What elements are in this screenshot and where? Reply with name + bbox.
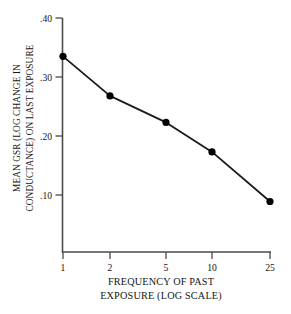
x-axis-ticks bbox=[63, 252, 270, 259]
x-tick-label-5: 5 bbox=[164, 262, 169, 273]
data-series-line bbox=[63, 56, 270, 201]
chart-plot-area: .40 .30 .20 .10 1 2 5 10 25 bbox=[0, 0, 291, 314]
x-axis-title: FREQUENCY OF PAST EXPOSURE (LOG SCALE) bbox=[46, 275, 276, 302]
figure-container: MEAN GSR (LOG CHANGE IN CONDUCTANCE) ON … bbox=[0, 0, 291, 314]
y-tick-label-20: .20 bbox=[40, 131, 52, 142]
x-tick-label-2: 2 bbox=[108, 262, 113, 273]
y-tick-label-30: .30 bbox=[40, 72, 52, 83]
y-axis-ticks bbox=[56, 18, 63, 195]
y-tick-label-40: .40 bbox=[40, 13, 52, 24]
x-tick-label-1: 1 bbox=[61, 262, 66, 273]
x-axis-title-line-2: EXPOSURE (LOG SCALE) bbox=[46, 289, 276, 303]
data-point-25 bbox=[266, 198, 273, 205]
x-tick-label-10: 10 bbox=[207, 262, 217, 273]
y-tick-label-10: .10 bbox=[40, 190, 52, 201]
data-point-1 bbox=[59, 53, 66, 60]
data-point-2 bbox=[106, 92, 113, 99]
x-axis-title-line-1: FREQUENCY OF PAST bbox=[46, 275, 276, 289]
x-tick-label-25: 25 bbox=[265, 262, 275, 273]
data-series-markers bbox=[59, 53, 273, 205]
data-point-10 bbox=[208, 148, 215, 155]
data-point-5 bbox=[162, 119, 169, 126]
